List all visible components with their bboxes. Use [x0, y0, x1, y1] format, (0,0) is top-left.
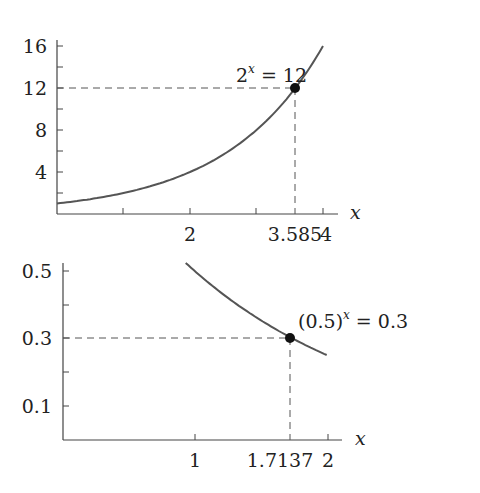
- bottom-chart: 0.5 0.3 0.1 1 1.7137 2 x (0.5)x= 0.3: [22, 260, 408, 471]
- top-chart: 16 12 8 4 2 3.585 4 x 2x= 12: [23, 35, 361, 245]
- bottom-curve-half-pow-x: [186, 263, 327, 355]
- top-x-label-2: 2: [184, 223, 196, 245]
- bottom-x-label-1: 1: [189, 449, 201, 471]
- top-y-label-4: 4: [35, 161, 47, 183]
- top-annotation: 2x= 12: [236, 62, 307, 86]
- bottom-x-axis-label: x: [355, 427, 366, 449]
- top-x-ticks: [123, 208, 323, 214]
- bottom-highlight-point: [285, 333, 295, 343]
- top-x-label-3585: 3.585: [268, 223, 322, 245]
- bottom-x-label-2: 2: [322, 449, 334, 471]
- top-y-label-16: 16: [23, 35, 47, 57]
- top-x-axis-label: x: [350, 201, 361, 223]
- top-y-label-8: 8: [35, 119, 47, 141]
- bottom-y-label-05: 0.5: [22, 260, 52, 282]
- top-y-label-12: 12: [23, 77, 47, 99]
- bottom-x-label-17137: 1.7137: [247, 449, 313, 471]
- top-y-ticks: [57, 46, 63, 193]
- bottom-y-label-01: 0.1: [22, 395, 52, 417]
- top-x-label-4: 4: [320, 223, 332, 245]
- chart-canvas: 16 12 8 4 2 3.585 4 x 2x= 12: [0, 0, 480, 493]
- bottom-x-ticks: [195, 434, 328, 440]
- bottom-annotation: (0.5)x= 0.3: [298, 308, 408, 332]
- bottom-y-label-03: 0.3: [22, 327, 52, 349]
